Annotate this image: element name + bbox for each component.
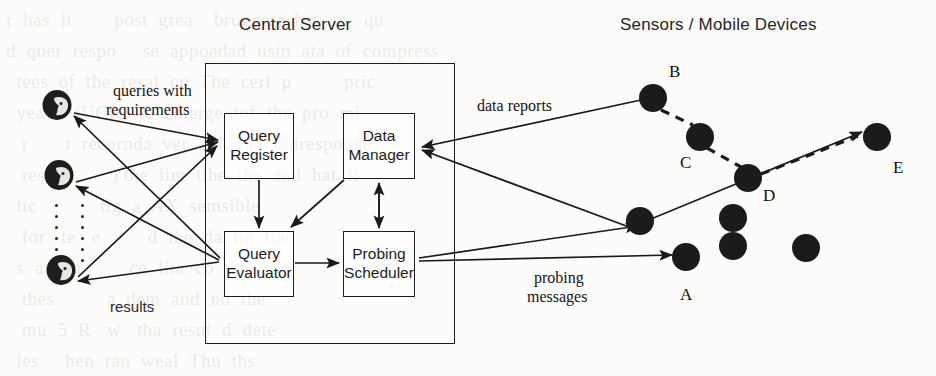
flow-label-results: results xyxy=(110,299,154,316)
sensor-node-unlabeled-3[interactable] xyxy=(719,232,747,260)
sensor-node-unlabeled-2[interactable] xyxy=(719,204,747,232)
arrow-results-to-user3 xyxy=(78,262,219,281)
sensor-label-C: C xyxy=(680,153,691,172)
sensor-node-E[interactable] xyxy=(863,123,891,151)
arrow-results-to-user1 xyxy=(74,116,220,258)
dashed-hop-B-C xyxy=(661,110,693,125)
user-head-icon-3[interactable] xyxy=(44,253,78,287)
sensor-node-unlabeled-1[interactable] xyxy=(626,207,654,235)
sensor-label-A: A xyxy=(680,285,692,304)
flow-label-queries-line1: queries with xyxy=(113,82,192,100)
flow-label-queries-line2: requirements xyxy=(106,101,190,119)
architecture-figure: r has it post grea bruggest hat an qu d … xyxy=(0,0,936,376)
user-head-icon-2[interactable] xyxy=(42,158,76,192)
user-ellipsis-column-right xyxy=(81,204,84,270)
arrow-user3-queries-in xyxy=(78,146,217,277)
sensor-node-B[interactable] xyxy=(639,84,667,112)
flow-label-probing-line2: messages xyxy=(527,288,587,306)
arrow-probing-to-cluster xyxy=(419,226,638,258)
sensor-node-unlabeled-4[interactable] xyxy=(792,234,820,262)
sensor-node-A[interactable] xyxy=(672,243,700,271)
arrow-manager-to-evaluator xyxy=(291,180,344,227)
sensor-label-B: B xyxy=(669,62,680,81)
arrow-results-to-user2 xyxy=(76,186,219,260)
user-head-icon-1[interactable] xyxy=(40,88,74,122)
flow-label-data-reports: data reports xyxy=(477,97,552,115)
flow-label-probing-line1: probing xyxy=(534,269,584,287)
sensor-label-D: D xyxy=(763,186,775,205)
sensor-node-D[interactable] xyxy=(734,164,762,192)
sensor-label-E: E xyxy=(893,158,903,177)
arrow-user2-queries-in xyxy=(76,142,218,182)
arrow-probing-to-A xyxy=(419,255,672,261)
dashed-hop-C-D xyxy=(707,148,741,167)
user-ellipsis-column-left xyxy=(55,204,58,270)
arrow-data-reports-from-cluster xyxy=(422,150,629,227)
connector-layer xyxy=(0,0,936,376)
sensor-node-C[interactable] xyxy=(686,123,714,151)
